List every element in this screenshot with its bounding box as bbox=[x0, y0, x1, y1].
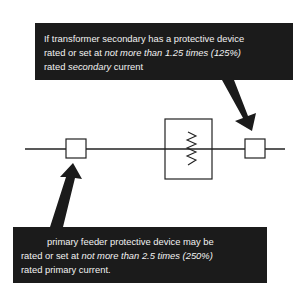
callout-bottom-line2: rated or set at not more than 2.5 times … bbox=[21, 249, 259, 263]
primary-device-callout: primary feeder protective device may be … bbox=[13, 227, 267, 283]
callout-top-line3: rated secondary current bbox=[44, 60, 284, 74]
secondary-device-callout: If transformer secondary has a protectiv… bbox=[35, 23, 293, 80]
callout-bottom-line1: primary feeder protective device may be bbox=[21, 235, 259, 249]
arrow-to-secondary-icon bbox=[222, 80, 256, 131]
primary-protective-device-box bbox=[66, 139, 86, 158]
callout-top-line2: rated or set at not more than 1.25 times… bbox=[44, 46, 284, 60]
callout-bottom-line3: rated primary current. bbox=[21, 263, 259, 277]
arrow-to-primary-icon bbox=[50, 163, 82, 227]
callout-top-line1: If transformer secondary has a protectiv… bbox=[44, 32, 284, 46]
secondary-protective-device-box bbox=[245, 139, 265, 158]
